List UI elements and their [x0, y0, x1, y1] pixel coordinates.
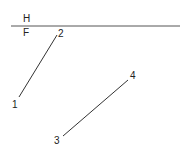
segment-1-2 — [19, 35, 57, 97]
point-label-1: 1 — [12, 99, 18, 110]
point-label-4: 4 — [130, 70, 136, 81]
segment-3-4 — [63, 80, 128, 136]
label-f: F — [23, 27, 29, 38]
point-label-2: 2 — [58, 28, 64, 39]
point-label-3: 3 — [54, 135, 60, 146]
label-h: H — [23, 13, 30, 24]
projection-diagram: H F 2 1 4 3 — [0, 0, 184, 148]
